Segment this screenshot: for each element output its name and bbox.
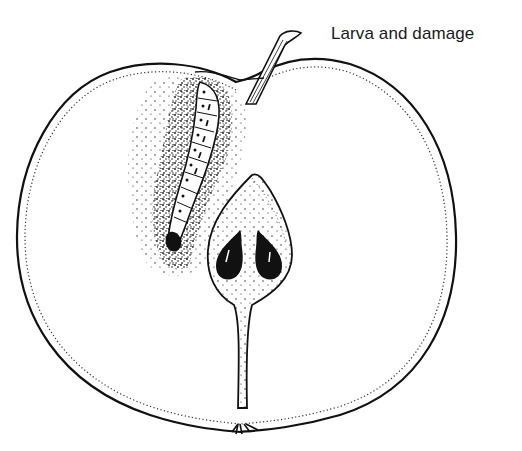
- figure-caption: Larva and damage: [331, 24, 474, 44]
- apple-illustration: Larva and damage: [0, 0, 522, 451]
- apple-drawing: [0, 0, 522, 451]
